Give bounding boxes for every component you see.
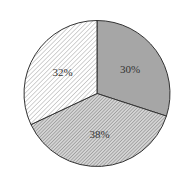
pie-slices — [24, 21, 170, 167]
slice-label: 38% — [89, 128, 109, 140]
slice-label: 32% — [52, 66, 72, 78]
pie-chart: 30%38%32% — [0, 0, 184, 187]
slice-label: 30% — [120, 63, 140, 75]
